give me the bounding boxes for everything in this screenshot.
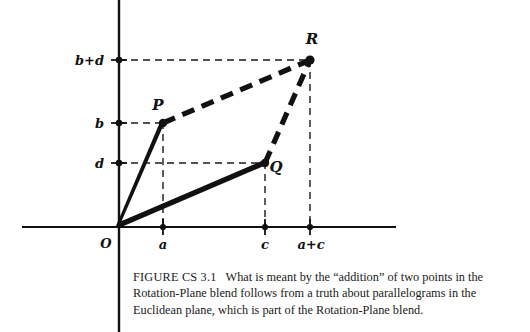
tick-dot-y-bplusd <box>116 57 123 64</box>
segment-o-to-q <box>117 160 266 228</box>
tick-dot-x-c <box>262 224 268 230</box>
axis-label-d: d <box>95 156 104 171</box>
tick-marks <box>111 60 310 235</box>
point-marker-r <box>305 55 314 64</box>
figure-number-label: FIGURE CS 3.1 <box>133 270 217 284</box>
figure-caption: FIGURE CS 3.1What is meant by the “addit… <box>133 269 518 318</box>
tick-dot-y-d <box>116 160 123 167</box>
solid-segments <box>116 122 266 228</box>
point-label-r: R <box>305 30 318 48</box>
point-label-p: P <box>151 96 164 114</box>
axis-tick-labels: b+d b d a c a+c O <box>75 53 325 252</box>
axis-label-c: c <box>261 237 269 252</box>
tick-dots <box>116 57 313 230</box>
point-marker-p <box>159 119 167 127</box>
point-markers <box>159 55 315 167</box>
tick-dot-y-b <box>116 120 123 127</box>
axis-label-bplusd: b+d <box>75 53 104 68</box>
segment-q-to-r <box>265 60 310 163</box>
tick-dot-x-a <box>160 224 166 230</box>
axis-label-a: a <box>159 237 167 252</box>
point-label-q: Q <box>269 158 282 176</box>
guide-lines <box>119 60 310 227</box>
axis-label-aplusc: a+c <box>297 237 324 252</box>
point-marker-q <box>261 159 269 167</box>
dashed-bold-segments <box>163 60 310 163</box>
figure-page: b+d b d a c a+c O P Q R FIGURE CS 3.1Wha… <box>0 0 530 332</box>
tick-dot-x-aplusc <box>307 224 313 230</box>
axis-label-b: b <box>95 116 104 131</box>
axis-label-origin: O <box>100 236 112 251</box>
